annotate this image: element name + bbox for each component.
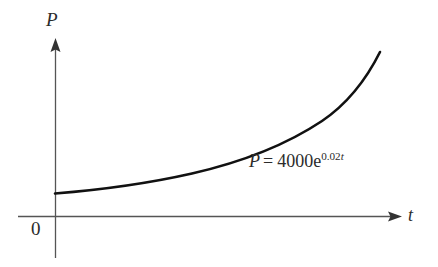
equation-base: e bbox=[313, 151, 321, 171]
curve-equation-annotation: P=4000e0.02t bbox=[249, 152, 344, 170]
exponential-growth-figure: P t 0 P=4000e0.02t bbox=[0, 0, 438, 267]
exponential-curve bbox=[55, 52, 380, 194]
equation-operator: = bbox=[260, 151, 277, 171]
equation-exponent-variable: t bbox=[341, 150, 344, 162]
equation-coefficient: 4000 bbox=[277, 151, 313, 171]
y-axis-label: P bbox=[46, 10, 58, 29]
origin-label: 0 bbox=[31, 219, 41, 238]
equation-exponent-coefficient: 0.02 bbox=[321, 150, 341, 162]
plot-canvas bbox=[0, 0, 438, 267]
x-axis-label: t bbox=[408, 206, 413, 224]
equation-lhs: P bbox=[249, 151, 260, 171]
equation-exponent: 0.02t bbox=[321, 150, 344, 162]
